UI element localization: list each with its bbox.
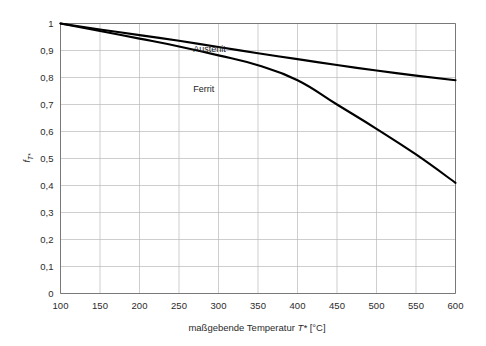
x-tick-label: 100: [53, 300, 69, 311]
y-tick-label: 0,4: [40, 180, 53, 191]
x-tick-label: 600: [448, 300, 464, 311]
x-tick-label: 350: [250, 300, 266, 311]
chart-figure: 00,10,20,30,40,50,60,70,80,91 1001502002…: [0, 0, 486, 346]
x-tick-label: 450: [329, 300, 345, 311]
y-tick-label: 0,9: [40, 45, 53, 56]
x-axis-title-text: maßgebende Temperatur T* [°C]: [188, 322, 325, 333]
y-tick-label: 0,7: [40, 99, 53, 110]
y-tick-label: 0,1: [40, 261, 53, 272]
annotation-ferrit: Ferrit: [193, 84, 214, 94]
x-tick-label: 500: [369, 300, 385, 311]
y-tick-label: 0: [48, 288, 53, 299]
y-tick-label: 1: [48, 18, 53, 29]
y-tick-label: 0,2: [40, 234, 53, 245]
y-tick-label: 0,8: [40, 72, 53, 83]
x-tick-label: 150: [92, 300, 108, 311]
y-tick-label: 0,3: [40, 207, 53, 218]
x-tick-label: 200: [132, 300, 148, 311]
y-tick-label: 0,5: [40, 153, 53, 164]
chart-svg: 00,10,20,30,40,50,60,70,80,91 1001502002…: [0, 0, 486, 346]
y-tick-label: 0,6: [40, 126, 53, 137]
annotation-austenit: Austenit: [193, 44, 226, 54]
x-tick-label: 400: [290, 300, 306, 311]
x-axis-title: maßgebende Temperatur T* [°C]: [188, 322, 325, 333]
x-tick-label: 250: [171, 300, 187, 311]
x-tick-label: 550: [408, 300, 424, 311]
x-tick-label: 300: [211, 300, 227, 311]
